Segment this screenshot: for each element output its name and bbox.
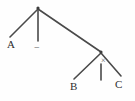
edge-right-node-to-b — [74, 53, 101, 79]
root-node-point — [36, 6, 39, 9]
operator-label-minus: − — [34, 43, 40, 53]
edge-root-to-right-node — [38, 9, 101, 52]
right-node-point — [99, 50, 102, 53]
edge-root-to-a — [10, 9, 38, 37]
leaf-label-a: A — [7, 39, 15, 50]
leaf-label-b: B — [70, 81, 77, 92]
tree-diagram-canvas: A − B × C — [0, 0, 135, 101]
operator-label-times: × — [101, 57, 106, 65]
leaf-label-c: C — [115, 79, 122, 90]
